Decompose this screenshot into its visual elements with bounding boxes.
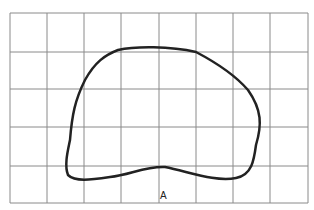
grid-lines bbox=[10, 13, 308, 203]
figure-label: A bbox=[160, 190, 167, 201]
blob-outline bbox=[66, 47, 260, 180]
grid-diagram bbox=[0, 0, 314, 210]
